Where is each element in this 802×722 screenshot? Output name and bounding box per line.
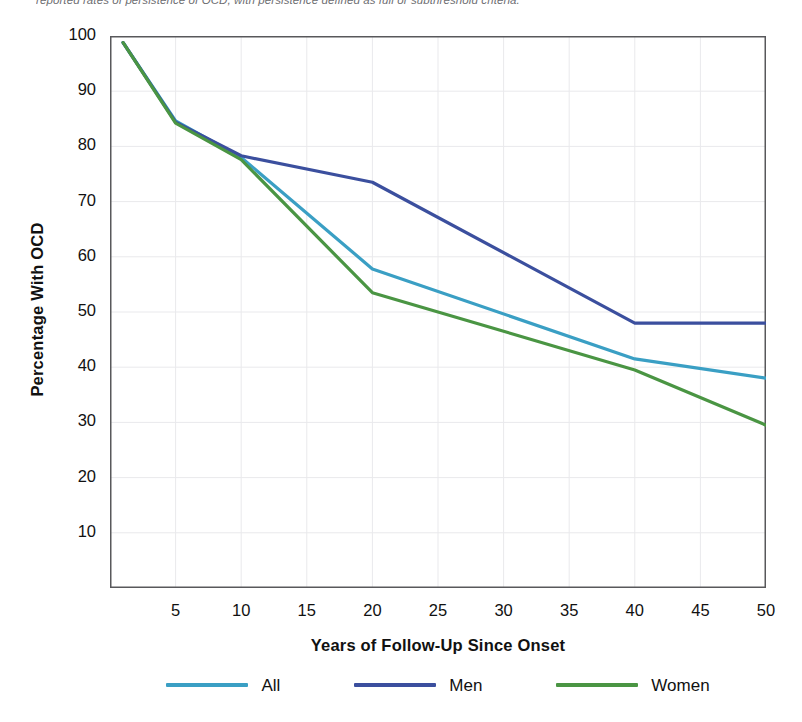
y-tick-label-90: 90 [34, 80, 96, 99]
line-chart-svg [110, 36, 766, 588]
legend-label-women: Women [651, 677, 709, 694]
y-tick-label-50: 50 [34, 301, 96, 320]
x-tick-label-5: 5 [152, 601, 200, 620]
legend-swatch-women-icon [556, 683, 638, 687]
figure-caption-text: reported rates of persistence of OCD, wi… [36, 0, 776, 6]
x-axis-title: Years of Follow-Up Since Onset [110, 636, 766, 655]
series-line-all [123, 43, 766, 379]
legend-swatch-all-icon [166, 683, 248, 687]
x-tick-label-20: 20 [348, 601, 396, 620]
legend-item-women[interactable]: Women [556, 677, 709, 694]
legend-label-men: Men [449, 677, 482, 694]
x-tick-label-45: 45 [676, 601, 724, 620]
x-tick-label-10: 10 [217, 601, 265, 620]
legend-item-men[interactable]: Men [354, 677, 482, 694]
x-tick-label-50: 50 [742, 601, 790, 620]
y-tick-label-60: 60 [34, 246, 96, 265]
legend-item-all[interactable]: All [166, 677, 280, 694]
chart-legend: AllMenWomen [110, 668, 766, 702]
series-line-men [123, 43, 766, 323]
x-tick-label-15: 15 [283, 601, 331, 620]
x-tick-label-25: 25 [414, 601, 462, 620]
y-tick-label-70: 70 [34, 191, 96, 210]
y-tick-label-80: 80 [34, 135, 96, 154]
legend-label-all: All [261, 677, 280, 694]
x-tick-label-35: 35 [545, 601, 593, 620]
legend-swatch-men-icon [354, 683, 436, 687]
y-tick-label-20: 20 [34, 467, 96, 486]
x-tick-label-40: 40 [611, 601, 659, 620]
series-line-women [123, 43, 766, 426]
y-tick-label-100: 100 [34, 25, 96, 44]
x-tick-label-30: 30 [480, 601, 528, 620]
y-tick-label-30: 30 [34, 411, 96, 430]
chart-figure: reported rates of persistence of OCD, wi… [0, 0, 802, 722]
y-tick-label-40: 40 [34, 356, 96, 375]
y-tick-label-10: 10 [34, 522, 96, 541]
figure-caption-clipped: reported rates of persistence of OCD, wi… [36, 0, 776, 8]
data-series-lines [123, 43, 766, 426]
plot-area [110, 36, 766, 588]
